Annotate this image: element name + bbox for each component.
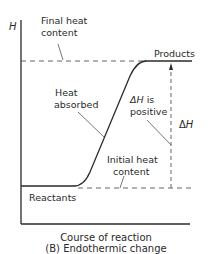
energy-diagram: H Final heat content Products Heat absor…	[0, 0, 212, 254]
heat-absorbed-label-line1: Heat	[55, 87, 78, 98]
initial-heat-label-line1: Initial heat	[107, 154, 158, 165]
heat-absorbed-leader	[78, 112, 104, 137]
y-axis-label: H	[9, 21, 17, 32]
heat-absorbed-label-line2: absorbed	[54, 99, 98, 110]
delta-h-is-label-line1: ΔΔH isH is	[130, 94, 154, 105]
final-heat-label-line1: Final heat	[41, 15, 87, 26]
figure-caption: (B) Endothermic change	[0, 243, 212, 254]
initial-heat-leader	[120, 176, 124, 188]
delta-h-is-label-line2: positive	[130, 106, 167, 117]
arrow-up-icon	[169, 63, 173, 70]
delta-h-positive-leader	[147, 120, 171, 145]
final-heat-leader	[58, 44, 63, 60]
initial-heat-label-line2: content	[113, 166, 149, 177]
delta-h-label: ΔHΔH	[179, 119, 193, 130]
products-label: Products	[154, 48, 195, 59]
reactants-label: Reactants	[29, 192, 76, 203]
final-heat-label-line2: content	[41, 27, 77, 38]
